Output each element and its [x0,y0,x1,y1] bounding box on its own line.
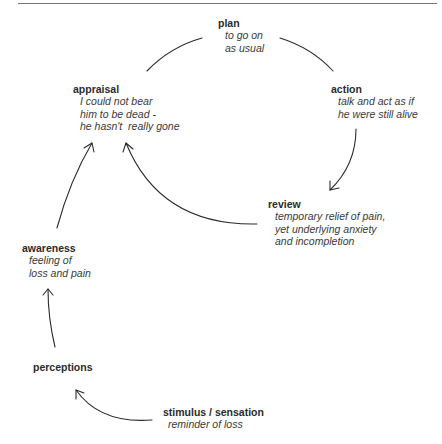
desc-line: as usual [225,42,264,54]
desc-line: he were still alive [338,108,418,120]
desc-line: reminder of loss [168,418,264,430]
edge-appraisal-plan [147,38,202,71]
edge-plan-action [280,38,333,71]
node-title: perceptions [33,361,93,373]
desc-line: yet underlying anxiety [275,223,385,235]
node-title: appraisal [73,83,180,95]
node-stimulus: stimulus / sensation reminder of loss [163,406,264,431]
node-title: plan [218,17,264,29]
desc-line: he hasn't really gone [80,120,180,132]
node-awareness: awareness feeling of loss and pain [22,242,91,279]
node-action: action talk and act as if he were still … [331,83,418,120]
desc-line: I could not bear [80,95,180,107]
node-title: review [268,198,385,210]
edge-perceptions-awareness [48,289,55,347]
edge-stimulus-perceptions [76,390,152,420]
node-plan: plan to go on as usual [218,17,264,54]
node-description: feeling of loss and pain [22,254,91,279]
desc-line: feeling of [29,254,91,266]
node-perceptions: perceptions [33,361,93,373]
node-review: review temporary relief of pain, yet und… [268,198,385,248]
node-description: reminder of loss [163,418,264,430]
edge-awareness-appraisal [57,143,92,228]
desc-line: temporary relief of pain, [275,210,385,222]
desc-line: and incompletion [275,235,385,247]
edge-review-appraisal [126,143,257,224]
edge-action-review [330,129,356,190]
node-description: to go on as usual [218,29,264,54]
node-title: awareness [22,242,91,254]
node-description: I could not bear him to be dead - he has… [73,95,180,132]
node-appraisal: appraisal I could not bear him to be dea… [73,83,180,133]
node-title: stimulus / sensation [163,406,264,418]
node-title: action [331,83,418,95]
node-description: talk and act as if he were still alive [331,95,418,120]
desc-line: him to be dead - [80,108,180,120]
desc-line: loss and pain [29,267,91,279]
node-description: temporary relief of pain, yet underlying… [268,210,385,247]
desc-line: to go on [225,29,264,41]
desc-line: talk and act as if [338,95,418,107]
